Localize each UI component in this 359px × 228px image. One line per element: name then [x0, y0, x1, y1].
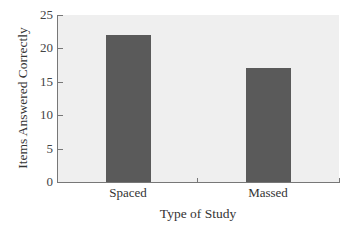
y-axis-tick — [58, 115, 63, 116]
y-axis-tick — [58, 82, 63, 83]
y-axis-line — [57, 15, 58, 183]
plot-area — [57, 15, 339, 182]
x-axis-tick — [197, 178, 198, 182]
x-axis-tick — [339, 178, 340, 182]
x-axis-category-label: Spaced — [88, 186, 168, 200]
y-axis-tick-label: 10 — [33, 108, 53, 121]
y-axis-tick — [58, 149, 63, 150]
y-axis-tick-label: 0 — [33, 175, 53, 188]
y-axis-tick-label: 25 — [33, 8, 53, 21]
y-axis-tick-label: 5 — [33, 142, 53, 155]
bar-massed — [246, 68, 291, 182]
y-axis-tick-label: 20 — [33, 41, 53, 54]
y-axis-label: Items Answered Correctly — [15, 27, 30, 169]
x-axis-category-label: Massed — [228, 186, 308, 200]
bar-spaced — [106, 35, 151, 182]
y-axis-tick — [58, 182, 63, 183]
y-axis-tick — [58, 15, 63, 16]
y-axis-tick-label: 15 — [33, 75, 53, 88]
x-axis-line — [57, 182, 340, 183]
x-axis-label: Type of Study — [57, 206, 339, 221]
y-axis-tick — [58, 48, 63, 49]
